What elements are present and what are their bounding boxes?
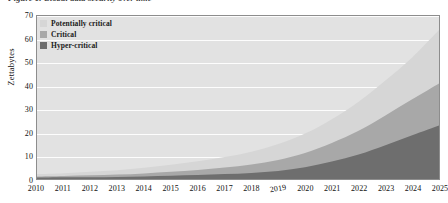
legend-item-label: Hyper-critical xyxy=(51,41,98,50)
y-axis-tick-labels: 010203040506070 xyxy=(0,0,33,203)
legend-item: Hyper-critical xyxy=(40,40,112,50)
x-axis-tick-labels: 2010201120122013201420152016201720182019… xyxy=(0,184,448,198)
legend-item-label: Critical xyxy=(51,30,76,39)
y-axis-tick-label: 30 xyxy=(1,105,33,114)
x-axis-tick-label: 2015 xyxy=(162,184,178,193)
figure-container: Figure 1. Global data security over time… xyxy=(0,0,448,203)
x-axis-tick-label: 2020 xyxy=(297,184,313,193)
legend-item: Critical xyxy=(40,29,112,39)
legend-swatch-icon xyxy=(40,31,47,38)
x-axis-tick-label: 2022 xyxy=(351,184,367,193)
y-axis-tick-label: 50 xyxy=(1,58,33,67)
x-axis-tick-label: 2017 xyxy=(216,184,232,193)
x-axis-tick-label: 2024 xyxy=(405,184,421,193)
y-axis-tick-label: 10 xyxy=(1,152,33,161)
x-axis-tick-label: 2011 xyxy=(55,184,71,193)
x-axis-tick-label: 2014 xyxy=(136,184,152,193)
plot-area: Potentially criticalCriticalHyper-critic… xyxy=(36,15,440,180)
x-axis-tick-label: 2023 xyxy=(378,184,394,193)
x-axis-tick-label: 2012 xyxy=(82,184,98,193)
legend-swatch-icon xyxy=(40,42,47,49)
y-axis-tick-label: 60 xyxy=(1,34,33,43)
legend-item-label: Potentially critical xyxy=(51,19,112,28)
legend-item: Potentially critical xyxy=(40,18,112,28)
x-axis-tick-label: 2025 xyxy=(432,184,448,193)
x-axis-tick-label: 2021 xyxy=(324,184,340,193)
y-axis-tick-label: 70 xyxy=(1,11,33,20)
y-axis-tick-label: 20 xyxy=(1,128,33,137)
y-axis-tick-label: 40 xyxy=(1,81,33,90)
x-axis-tick-label: 2016 xyxy=(189,184,205,193)
x-axis-tick-label: 2018 xyxy=(243,184,259,193)
x-axis-tick-label: 2019 xyxy=(270,183,288,194)
chart-legend: Potentially criticalCriticalHyper-critic… xyxy=(40,18,112,51)
x-axis-tick-label: 2013 xyxy=(109,184,125,193)
x-axis-tick-label: 2010 xyxy=(28,184,44,193)
legend-swatch-icon xyxy=(40,20,47,27)
